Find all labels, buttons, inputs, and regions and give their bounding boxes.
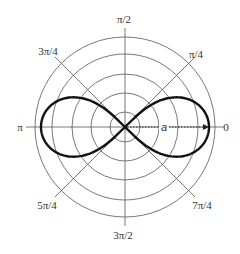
angle-label-0: 0 — [223, 121, 229, 133]
radius-label: a — [161, 121, 167, 133]
angle-label-7pi_4: 7π/4 — [192, 199, 212, 211]
angle-label-pi_2: π/2 — [117, 13, 131, 25]
angle-label-pi_4: π/4 — [189, 48, 204, 60]
angle-label-3pi_4: 3π/4 — [38, 45, 58, 57]
angle-label-pi: π — [17, 121, 23, 133]
polar-plot: a 0π/4π/23π/4π5π/43π/27π/4 — [0, 0, 240, 254]
angle-label-3pi_2: 3π/2 — [113, 229, 133, 241]
angle-label-5pi_4: 5π/4 — [37, 199, 57, 211]
